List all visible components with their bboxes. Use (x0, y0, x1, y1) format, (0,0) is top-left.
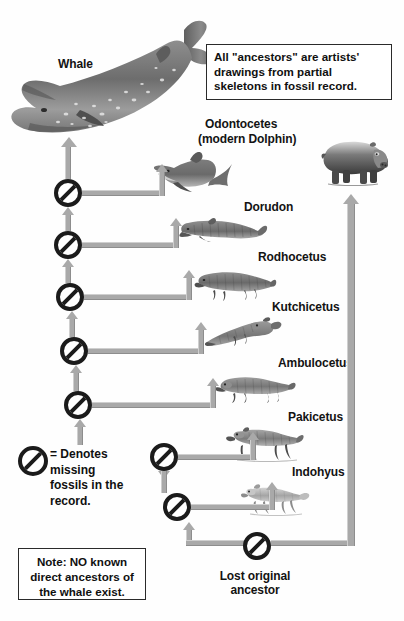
label-ambulocetus: Ambulocetus (278, 357, 353, 370)
odontocetes-label-line2: (modern Dolphin) (198, 133, 296, 146)
lost-ancestor-label-line2: ancestor (196, 584, 314, 597)
branch-to-rodhocetus-head (183, 270, 195, 278)
branch-to-indohyus-head (266, 482, 278, 490)
chain-arrow-head-3 (66, 311, 78, 319)
chain-arrow-stem-1 (65, 215, 71, 231)
legend-prohibition-sign (18, 446, 48, 476)
ambulocetus-illustration (213, 372, 297, 404)
branch-to-dorudon-riser (173, 226, 179, 248)
hippo-illustration (318, 136, 392, 192)
missing-fossil-sign-4 (60, 337, 88, 365)
branch-to-dolphin-riser (159, 172, 165, 196)
missing-fossil-sign-5 (64, 391, 92, 419)
whale-illustration (6, 18, 218, 148)
label-kutchicetus: Kutchicetus (272, 301, 340, 314)
lost-ancestor-left-run (186, 540, 244, 546)
chain-arrow-head-5 (74, 419, 86, 427)
label-indohyus: Indohyus (292, 466, 345, 479)
kutchicetus-illustration (205, 316, 285, 348)
label-rodhocetus: Rodhocetus (258, 251, 326, 264)
branch-to-dolphin-head (156, 164, 168, 172)
lost-ancestor-label-line1: Lost original (196, 570, 314, 583)
branch-to-rodhocetus-riser (186, 278, 192, 300)
branch-to-pakicetus-riser (250, 440, 256, 460)
label-dorudon: Dorudon (244, 201, 293, 214)
missing-fossil-sign-7 (163, 493, 191, 521)
missing-fossil-sign-1 (54, 179, 82, 207)
branch-to-indohyus-riser (269, 490, 275, 510)
branch-to-indohyus-stem (191, 504, 271, 510)
chain-arrow-stem-4 (73, 373, 79, 391)
branch-to-dorudon-head (170, 218, 182, 226)
label-pakicetus: Pakicetus (288, 411, 343, 424)
missing-fossil-sign-3 (56, 283, 84, 311)
branch-to-kutchicetus-head (195, 322, 207, 330)
chain-arrow-head-4 (70, 365, 82, 373)
odontocetes-label-line1: Odontocetes (205, 118, 277, 131)
branch-to-pakicetus-stem (178, 454, 252, 460)
chain-arrow-head-1 (62, 207, 74, 215)
page-title: Whale (58, 58, 93, 71)
branch-to-ambulocetus-stem (92, 402, 212, 408)
lost-ancestor-left-head (183, 522, 195, 530)
dorudon-illustration (178, 216, 268, 244)
chain-arrow-stem-3 (69, 319, 75, 337)
branch-to-rodhocetus-stem (84, 294, 188, 300)
chain-arrow-stem-5 (77, 427, 83, 445)
lost-original-ancestor-sign (243, 532, 271, 560)
branch-to-dorudon-stem (82, 242, 176, 248)
hippo-branch-riser (347, 204, 355, 546)
arrow-to-whale-head (61, 137, 77, 147)
arrow-to-whale-stem (65, 147, 71, 179)
hippo-branch-head (343, 194, 359, 204)
branch-to-ambulocetus-head (207, 378, 219, 386)
hippo-branch-run (271, 540, 353, 546)
chain-arrow-stem-2 (65, 267, 71, 283)
branch-to-kutchicetus-riser (198, 330, 204, 354)
note-box: Note: NO known direct ancestors of the w… (18, 548, 146, 600)
branch-to-kutchicetus-stem (88, 348, 200, 354)
chain-arrow-stem-6 (161, 471, 167, 493)
legend-text: = Denotes missing fossils in the record. (50, 447, 130, 509)
whale-evolution-diagram: Whale All "ancestors" are artists' drawi… (0, 0, 404, 621)
branch-to-dolphin-stem (82, 190, 162, 196)
missing-fossil-sign-2 (54, 231, 82, 259)
branch-to-ambulocetus-riser (210, 386, 216, 408)
chain-arrow-head-2 (62, 259, 74, 267)
missing-fossil-sign-6 (150, 443, 178, 471)
branch-to-pakicetus-head (247, 432, 259, 440)
artist-drawing-callout: All "ancestors" are artists' drawings fr… (206, 44, 392, 100)
rodhocetus-illustration (193, 266, 277, 302)
